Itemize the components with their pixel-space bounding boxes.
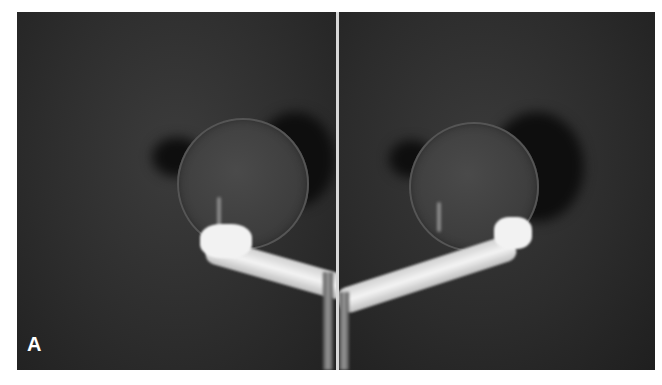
shaft-shadow (339, 292, 349, 370)
rod-end-cap (200, 224, 252, 258)
shaft-shadow (323, 272, 333, 370)
fixation-rod (339, 233, 519, 315)
panel-label: A (27, 333, 41, 356)
bone-streak (437, 202, 441, 232)
radiograph-panel-left (17, 12, 336, 370)
radiograph-panel-right (339, 12, 655, 370)
rod-end-cap (494, 217, 532, 249)
radiograph-figure: A (17, 12, 655, 370)
